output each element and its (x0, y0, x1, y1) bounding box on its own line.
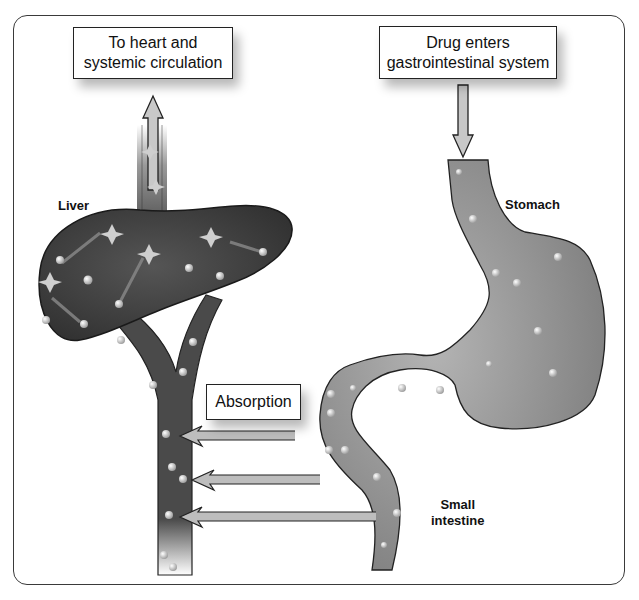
callout-absorption: Absorption (206, 384, 301, 420)
absorption-arrow-2 (192, 470, 320, 490)
label-stomach: Stomach (505, 197, 560, 213)
diagram-artwork (0, 0, 639, 600)
label-liver: Liver (58, 198, 89, 214)
down-arrow-icon (453, 85, 473, 157)
label-small-intestine: Small intestine (431, 497, 484, 529)
callout-absorption-label: Absorption (215, 392, 292, 412)
callout-drug-line2: gastrointestinal system (387, 53, 550, 73)
callout-drug-line1: Drug enters (426, 33, 510, 53)
absorption-arrow-3 (180, 507, 376, 527)
callout-heart-line1: To heart and (109, 33, 198, 53)
label-small-intestine-line2: intestine (431, 513, 484, 529)
callout-heart-line2: systemic circulation (84, 53, 223, 73)
label-small-intestine-line1: Small (431, 497, 484, 513)
callout-heart-systemic-circulation: To heart and systemic circulation (73, 27, 233, 79)
callout-drug-enters-gi: Drug enters gastrointestinal system (379, 26, 557, 79)
absorption-arrow-1 (180, 426, 295, 446)
